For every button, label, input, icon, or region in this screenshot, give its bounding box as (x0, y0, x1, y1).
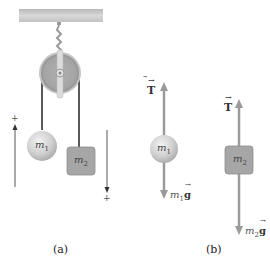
weight1-vector-arrow-icon: → (185, 181, 191, 189)
fbd-mass2 (225, 99, 253, 235)
hanger-chain (57, 22, 61, 54)
fbd-mass1-subscript: 1 (166, 148, 170, 156)
tension2-label: T (224, 101, 232, 114)
mass1-subscript: 1 (44, 145, 48, 153)
tension2-symbol: T (224, 101, 232, 114)
left-direction-arrow (13, 124, 18, 187)
mass1-label: m1 (35, 139, 49, 153)
left-plus-sign: + (11, 113, 19, 123)
atwood-diagram (0, 0, 270, 264)
weight1-g: g (184, 189, 191, 200)
tension1-vector-arrow-icon: → (148, 76, 155, 85)
mass2-subscript: 2 (83, 160, 87, 168)
tension1-label: ⃗T (147, 84, 155, 97)
tension2-vector-arrow-icon: → (225, 93, 232, 102)
caption-b: (b) (206, 243, 222, 256)
caption-a: (a) (53, 243, 68, 256)
fbd-mass2-subscript: 2 (242, 159, 246, 167)
fbd-mass1-label: m1 (157, 142, 171, 156)
ceiling-bar (19, 9, 103, 22)
weight2-vector-arrow-icon: → (260, 217, 266, 225)
fbd-mass2-label: m2 (233, 153, 247, 167)
right-plus-sign: + (103, 193, 111, 203)
weight2-g: g (259, 225, 266, 236)
weight2-label: m2g (245, 225, 266, 239)
mass2-label: m2 (74, 154, 88, 168)
tension1-symbol: T (147, 84, 155, 97)
right-direction-arrow (105, 130, 110, 193)
weight1-label: m1g (170, 189, 191, 203)
pulley (40, 50, 80, 98)
fbd-mass1 (150, 82, 178, 199)
